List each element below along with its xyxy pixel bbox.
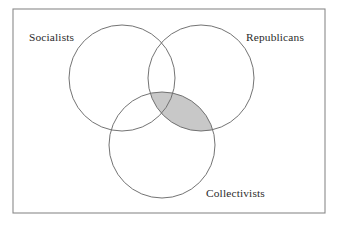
venn-label-collectivists: Collectivists bbox=[206, 187, 265, 199]
venn-diagram-figure: Socialists Republicans Collectivists bbox=[0, 0, 342, 229]
venn-label-socialists: Socialists bbox=[29, 31, 75, 43]
venn-diagram-canvas: Socialists Republicans Collectivists bbox=[0, 0, 342, 229]
venn-label-republicans: Republicans bbox=[246, 31, 304, 43]
